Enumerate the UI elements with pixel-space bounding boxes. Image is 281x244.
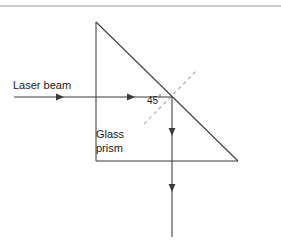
reflected-ray-arrowhead-1 (169, 128, 176, 136)
reflected-ray-arrowhead-2 (169, 184, 176, 192)
angle-value-text: 45 (147, 95, 158, 106)
angle-of-incidence-label: 45° (147, 92, 161, 107)
diagram-canvas: Laser beam Glassprism 45° (0, 0, 281, 244)
incident-ray-arrowhead-1 (56, 94, 64, 101)
optics-diagram (0, 0, 281, 244)
reflected-ray (169, 97, 176, 237)
incident-ray-arrowhead-2 (127, 94, 135, 101)
degree-symbol: ° (158, 93, 161, 102)
laser-beam-label: Laser beam (13, 79, 71, 91)
glass-prism-label-line-2: prism (96, 142, 124, 154)
glass-prism-label-line-1: Glass (96, 128, 124, 140)
glass-prism-label: Glassprism (96, 128, 124, 154)
